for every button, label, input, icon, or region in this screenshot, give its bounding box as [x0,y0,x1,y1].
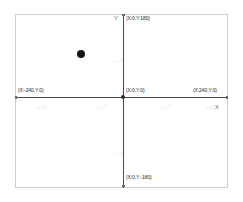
data-point[interactable] [77,50,85,58]
y-axis-label: Y [114,15,118,21]
plot-frame [15,14,228,188]
coord-label-top: (X:0,Y:180) [126,16,150,21]
x-axis-left-tick [15,96,17,99]
coord-label-left: (X:-240,Y:0) [18,88,43,93]
coord-label-right: (X:240,Y:0) [193,88,217,93]
x-axis-label: X [215,104,219,110]
coordinate-plot: map map map map map map Y X (X:0,Y:180) … [0,0,243,202]
origin-marker [121,95,125,99]
coord-label-origin: (X:0,Y:0) [126,88,145,93]
y-axis-bottom-tick [122,185,125,187]
y-axis-top-tick [122,14,125,16]
coord-label-bottom: (X:0,Y:-180) [126,175,151,180]
x-axis-right-tick [226,96,228,99]
y-axis-line [123,14,124,188]
